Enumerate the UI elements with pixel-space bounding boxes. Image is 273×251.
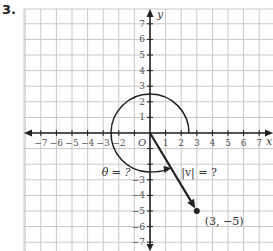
x-tick-label: −6 [50, 138, 64, 148]
x-axis-label: x [266, 135, 273, 148]
x-tick-label: 1 [163, 138, 169, 148]
y-tick-label: 7 [139, 19, 145, 29]
y-axis-up-arrow-icon [147, 9, 154, 17]
y-tick-label: −3 [132, 175, 146, 185]
x-tick-label: −4 [81, 138, 95, 148]
y-tick-label: −5 [132, 206, 146, 216]
y-tick-label: −6 [132, 222, 146, 232]
y-tick-label: 6 [139, 34, 145, 44]
y-tick-label: 4 [139, 66, 145, 76]
x-tick-label: 3 [194, 138, 200, 148]
point-3-neg5 [194, 208, 200, 214]
y-axis-label: y [156, 8, 164, 21]
x-tick-label: 4 [210, 138, 216, 148]
x-tick-label: −7 [34, 138, 48, 148]
y-axis-down-arrow-icon [147, 244, 154, 251]
x-tick-label: 7 [256, 138, 262, 148]
y-tick-label: 2 [139, 97, 145, 107]
x-tick-label: −3 [97, 138, 111, 148]
x-tick-label: 2 [178, 138, 184, 148]
y-tick-label: 1 [139, 112, 145, 122]
y-tick-label: 3 [139, 81, 145, 91]
theta-label: θ = ? [102, 166, 131, 179]
magnitude-label: |v| = ? [181, 166, 217, 180]
origin-label: O [138, 137, 146, 148]
y-tick-label: 5 [139, 50, 145, 60]
y-tick-label: −7 [132, 237, 146, 247]
x-tick-label: 5 [225, 138, 231, 148]
y-tick-label: −4 [132, 190, 146, 200]
coordinate-plane: −7−6−5−4−3−212345671234567−3−4−5−6−7 (3,… [0, 0, 273, 251]
point-label: (3, −5) [205, 215, 244, 228]
x-tick-label: −2 [112, 138, 125, 148]
x-tick-label: 6 [241, 138, 247, 148]
x-tick-label: −5 [65, 138, 79, 148]
